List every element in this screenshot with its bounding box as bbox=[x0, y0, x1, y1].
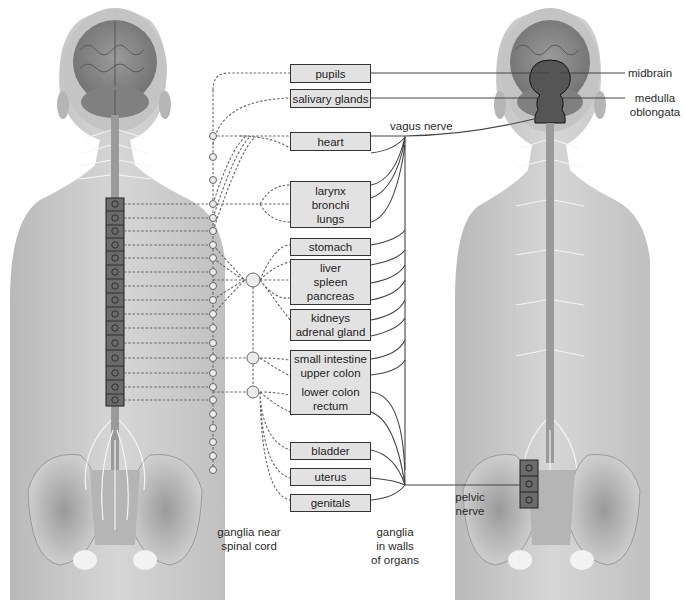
organ-box-genitals: genitals bbox=[290, 494, 371, 512]
organ-label: spleen bbox=[314, 275, 348, 289]
organ-label: kidneys bbox=[311, 311, 350, 325]
organ-box-larynx-bronchi-lungs: larynx bronchi lungs bbox=[290, 181, 371, 228]
organ-label: pancreas bbox=[307, 289, 354, 303]
organ-label: salivary glands bbox=[292, 92, 368, 106]
sympathetic-chain bbox=[106, 198, 124, 406]
organ-label: bronchi bbox=[312, 198, 350, 212]
label-line: pelvic bbox=[448, 490, 492, 504]
organ-label: adrenal gland bbox=[296, 325, 366, 339]
label-line: ganglia bbox=[365, 525, 425, 539]
label-line: in walls bbox=[365, 539, 425, 553]
organ-label: heart bbox=[317, 135, 343, 149]
organ-label: rectum bbox=[313, 399, 348, 413]
organ-box-bladder: bladder bbox=[290, 442, 371, 460]
organ-label: upper colon bbox=[300, 366, 360, 380]
sacral-parasympathetic-segments bbox=[520, 460, 538, 508]
brainstem-highlight bbox=[530, 60, 571, 123]
organ-label: larynx bbox=[315, 184, 346, 198]
organ-label: uterus bbox=[315, 470, 347, 484]
pelvic-nerve-label: pelvic nerve bbox=[448, 490, 492, 518]
organ-label: bladder bbox=[311, 444, 349, 458]
medulla-oblongata-label: medulla oblongata bbox=[625, 91, 685, 119]
organ-box-uterus: uterus bbox=[290, 468, 371, 486]
vagus-nerve-label: vagus nerve bbox=[390, 119, 453, 133]
left-body-figure bbox=[10, 8, 225, 600]
organ-label: lungs bbox=[317, 212, 345, 226]
organ-box-stomach: stomach bbox=[290, 238, 371, 256]
ganglia-near-spinal-cord-label: ganglia near spinal cord bbox=[210, 525, 288, 553]
label-line: oblongata bbox=[625, 105, 685, 119]
organ-box-intestine-colon-rectum: small intestine upper colon lower colon … bbox=[290, 350, 371, 415]
autonomic-nervous-system-diagram: pupils salivary glands heart larynx bron… bbox=[0, 0, 685, 610]
organ-box-pupils: pupils bbox=[290, 64, 371, 83]
label-line: ganglia near bbox=[210, 525, 288, 539]
organ-box-heart: heart bbox=[290, 132, 371, 151]
organ-label: small intestine bbox=[294, 352, 367, 366]
label-line: of organs bbox=[365, 553, 425, 567]
organ-box-liver-spleen-pancreas: liver spleen pancreas bbox=[290, 259, 371, 305]
organ-label: genitals bbox=[311, 496, 351, 510]
ganglia-in-walls-of-organs-label: ganglia in walls of organs bbox=[365, 525, 425, 567]
organ-label: lower colon bbox=[301, 385, 359, 399]
organ-box-kidneys-adrenal: kidneys adrenal gland bbox=[290, 309, 371, 341]
label-line: medulla bbox=[625, 91, 685, 105]
organ-label: liver bbox=[320, 261, 341, 275]
label-line: spinal cord bbox=[210, 539, 288, 553]
organ-box-salivary-glands: salivary glands bbox=[290, 89, 371, 108]
organ-label: stomach bbox=[309, 240, 352, 254]
label-line: nerve bbox=[448, 504, 492, 518]
midbrain-label: midbrain bbox=[628, 66, 672, 80]
organ-label: pupils bbox=[315, 67, 345, 81]
